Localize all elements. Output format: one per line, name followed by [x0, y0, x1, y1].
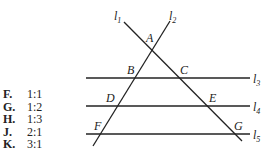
point-label-f: F	[93, 119, 102, 133]
label-l2: l2	[169, 9, 176, 25]
label-l4: l4	[253, 100, 260, 116]
point-label-e: E	[208, 91, 217, 105]
point-label-c: C	[180, 63, 189, 77]
geometry-diagram: l1 l2 l3 l4 l5 A B C D E F G	[0, 0, 267, 160]
label-l3: l3	[253, 72, 260, 88]
line-l2	[93, 21, 170, 146]
point-label-d: D	[105, 91, 115, 105]
point-label-a: A	[145, 31, 154, 45]
label-l5: l5	[253, 128, 260, 144]
point-label-g: G	[234, 119, 243, 133]
label-l1: l1	[114, 9, 121, 25]
point-label-b: B	[127, 63, 135, 77]
line-l1	[124, 22, 242, 141]
